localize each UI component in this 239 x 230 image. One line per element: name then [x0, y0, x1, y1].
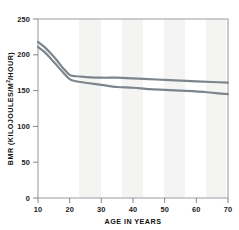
x-tick-label-50: 50 — [160, 205, 169, 214]
y-tick-label-150: 150 — [17, 86, 30, 95]
x-tick-label-20: 20 — [65, 205, 74, 214]
y-tick-label-250: 250 — [17, 15, 30, 24]
y-axis-title-tail: /HOUR) — [6, 52, 15, 80]
x-tick-label-70: 70 — [224, 205, 233, 214]
x-axis-ticks — [38, 198, 228, 203]
x-tick-label-30: 30 — [97, 205, 106, 214]
y-axis-tick-labels: 0 50 100 150 200 250 — [17, 15, 30, 203]
chart-figure: 0 50 100 150 200 250 10 20 30 40 50 60 7… — [0, 0, 239, 230]
y-tick-label-50: 50 — [21, 158, 30, 167]
x-axis-title: AGE IN YEARS — [105, 217, 162, 226]
bmr-vs-age-line-chart: 0 50 100 150 200 250 10 20 30 40 50 60 7… — [0, 0, 239, 230]
x-tick-label-10: 10 — [34, 205, 43, 214]
y-tick-label-0: 0 — [26, 194, 30, 203]
x-tick-label-60: 60 — [192, 205, 201, 214]
svg-text:BMR (KILOJOULES/M2/HOUR): BMR (KILOJOULES/M2/HOUR) — [5, 52, 15, 166]
y-axis-ticks — [33, 19, 38, 198]
x-tick-label-40: 40 — [129, 205, 138, 214]
x-axis-tick-labels: 10 20 30 40 50 60 70 — [34, 205, 233, 214]
y-tick-label-200: 200 — [17, 50, 30, 59]
y-axis-title: BMR (KILOJOULES/M2/HOUR) — [5, 52, 15, 166]
y-axis-title-main: BMR (KILOJOULES/M — [6, 83, 15, 165]
y-tick-label-100: 100 — [17, 122, 30, 131]
